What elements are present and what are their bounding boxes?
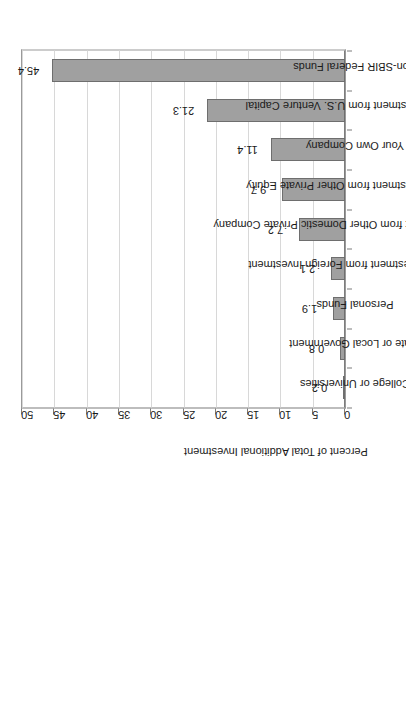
value-tick-0 [344,408,345,414]
chart-rotation-wrapper: 0.20.81.92.17.29.711.421.345.4 051015202… [0,0,406,719]
value-tick-15 [247,408,248,414]
value-tick-50 [21,408,22,414]
category-axis: College or UniversitiesState or Local Go… [347,49,387,408]
category-tick [347,169,352,170]
chart-figure-viewport: 0.20.81.92.17.29.711.421.345.4 051015202… [0,0,406,719]
value-tick-label-25: 25 [183,409,195,420]
category-label: State or Local Government [289,338,406,349]
value-axis-title-label: Percent of Total Additional Investment [184,446,368,457]
bar-slot: 0.2 [22,367,345,407]
bar-value-label: 1.9 [302,302,317,313]
category-label: Private Investment from Other Private Eq… [246,179,406,190]
bar-chart-figure: 0.20.81.92.17.29.711.421.345.4 051015202… [0,0,406,719]
category-tick [347,50,352,51]
value-tick-5 [312,408,313,414]
value-tick-label-30: 30 [150,409,162,420]
value-tick-30 [150,408,151,414]
bar-slot: 1.9 [22,288,345,328]
value-axis-title: Percent of Total Additional Investment [21,407,346,408]
value-tick-label-0: 0 [344,409,350,420]
category-label: Private Investment from Foreign Investme… [248,258,406,269]
category-label: Non-SBIR Federal Funds [293,60,406,71]
value-tick-label-5: 5 [312,409,318,420]
bar-value-label: 45.4 [18,64,39,75]
category-label: Personal Funds [316,298,393,309]
value-tick-35 [118,408,119,414]
category-tick [347,248,352,249]
category-tick [347,129,352,130]
category-label: Private Investment from Other Domestic P… [213,219,406,230]
value-tick-20 [215,408,216,414]
value-tick-label-35: 35 [118,409,130,420]
value-tick-40 [86,408,87,414]
value-tick-label-50: 50 [21,409,33,420]
bar-value-label: 11.4 [238,144,259,155]
value-tick-label-45: 45 [53,409,65,420]
value-tick-10 [279,408,280,414]
category-tick [347,209,352,210]
category-label: College or Universities [300,377,406,388]
category-label: Your Own Company [306,139,404,150]
value-tick-label-20: 20 [215,409,227,420]
bar-value-label: 21.3 [173,104,194,115]
value-tick-label-10: 10 [279,409,291,420]
value-tick-label-15: 15 [247,409,259,420]
bar-slot: 11.4 [22,129,345,169]
value-tick-45 [53,408,54,414]
category-tick [347,288,352,289]
category-label: Private Investment from U.S. Venture Cap… [246,100,406,111]
category-tick [347,407,352,408]
value-tick-label-40: 40 [86,409,98,420]
category-tick [347,90,352,91]
category-tick [347,328,352,329]
value-tick-25 [183,408,184,414]
category-tick [347,367,352,368]
